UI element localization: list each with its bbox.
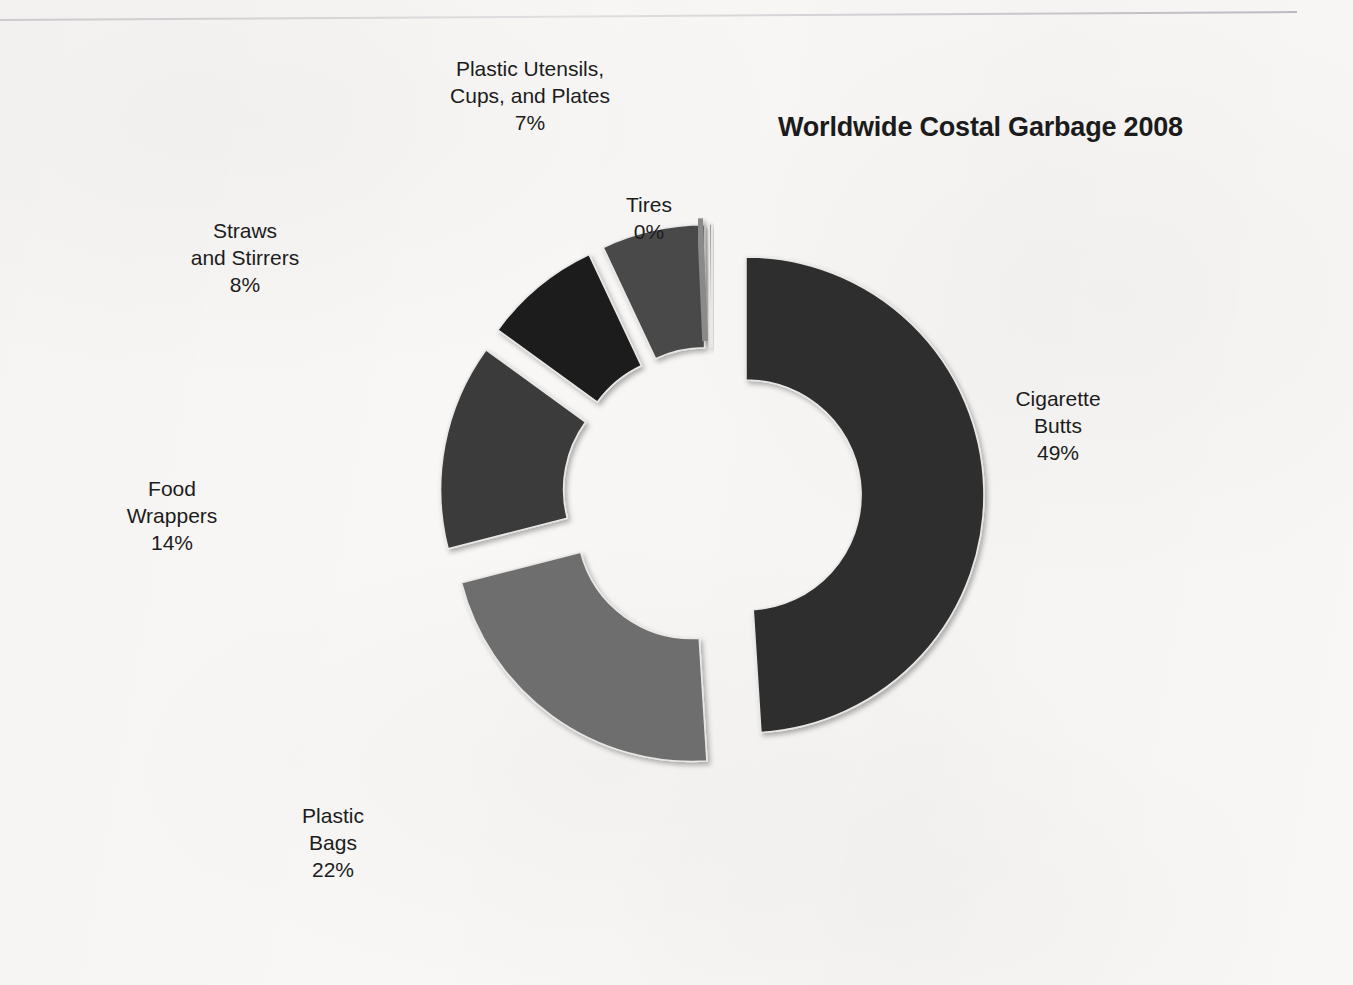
slice-label-line2: Cups, and Plates <box>385 83 675 110</box>
slice-label-plastic-utensils: Plastic Utensils, Cups, and Plates 7% <box>385 56 675 137</box>
pie-slice-cigarette-butts <box>746 257 984 733</box>
slice-label-line2: Bags <box>248 830 418 857</box>
pie-slice-plastic-bags <box>461 552 706 761</box>
slice-percent: 0% <box>566 219 732 246</box>
slice-label-line2: Wrappers <box>82 503 262 530</box>
slice-label-line1: Cigarette <box>958 386 1158 413</box>
slice-label-line2: and Stirrers <box>150 245 340 272</box>
slice-percent: 8% <box>150 272 340 299</box>
pie-slice-food-wrappers <box>441 350 586 549</box>
pie-slice-group <box>441 218 984 761</box>
slice-label-tires: Tires 0% <box>566 192 732 246</box>
slice-percent: 49% <box>958 440 1158 467</box>
slice-label-straws-and-stirrers: Straws and Stirrers 8% <box>150 218 340 299</box>
slice-label-line1: Food <box>82 476 262 503</box>
slice-label-line1: Plastic Utensils, <box>385 56 675 83</box>
slice-label-line1: Tires <box>566 192 732 219</box>
slice-label-food-wrappers: Food Wrappers 14% <box>82 476 262 557</box>
slice-percent: 22% <box>248 857 418 884</box>
slice-label-plastic-bags: Plastic Bags 22% <box>248 803 418 884</box>
slice-label-cigarette-butts: Cigarette Butts 49% <box>958 386 1158 467</box>
slice-percent: 7% <box>385 110 675 137</box>
slice-label-line1: Plastic <box>248 803 418 830</box>
slice-label-line2: Butts <box>958 413 1158 440</box>
slice-percent: 14% <box>82 530 262 557</box>
slice-label-line1: Straws <box>150 218 340 245</box>
